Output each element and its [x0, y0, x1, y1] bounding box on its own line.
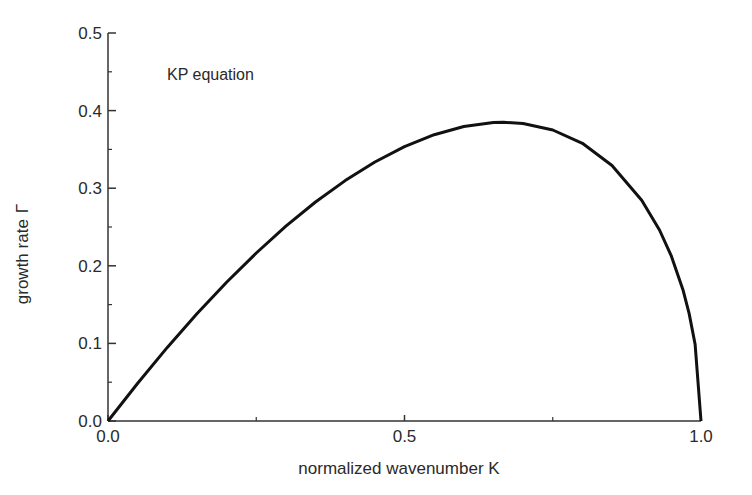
y-tick-label: 0.3	[78, 179, 102, 198]
y-tick-label: 0.5	[78, 24, 102, 43]
chart: 0.00.10.20.30.40.5 0.00.51.0 KP equation…	[0, 0, 752, 495]
x-ticks: 0.00.51.0	[96, 415, 713, 446]
axes: 0.00.10.20.30.40.5 0.00.51.0	[78, 24, 712, 446]
x-tick-label: 0.0	[96, 427, 120, 446]
x-tick-label: 0.5	[393, 427, 417, 446]
x-axis-label: normalized wavenumber K	[298, 459, 500, 478]
y-tick-label: 0.1	[78, 334, 102, 353]
y-ticks: 0.00.10.20.30.40.5	[78, 24, 116, 431]
annotation-kp-equation: KP equation	[167, 66, 254, 83]
y-tick-label: 0.4	[78, 102, 102, 121]
y-tick-label: 0.2	[78, 257, 102, 276]
growth-rate-curve	[108, 122, 701, 421]
y-axis-label-text: growth rate	[13, 219, 32, 304]
x-tick-label: 1.0	[689, 427, 713, 446]
y-axis-label-symbol: Γ	[13, 204, 32, 213]
y-axis-label: growth rateΓ	[13, 204, 32, 304]
